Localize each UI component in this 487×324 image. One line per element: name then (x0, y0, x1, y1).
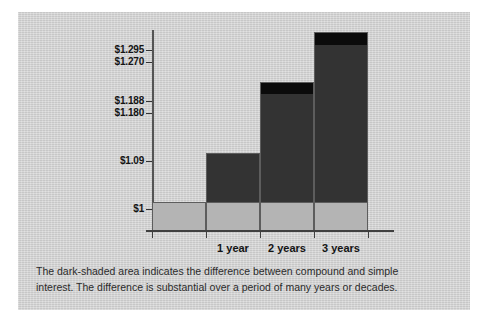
bar-2-years (260, 82, 314, 202)
bar-3-years (314, 32, 368, 202)
bar-1-year (206, 153, 260, 202)
x-tick-mark-4 (368, 231, 369, 238)
y-tick-label-109: $1.09 (120, 156, 144, 166)
x-axis-label-3-years: 3 years (306, 242, 376, 254)
principal-cell-1-year (206, 202, 260, 231)
caption-line-1: The dark-shaded area indicates the diffe… (36, 264, 454, 280)
y-tick-label-1: $1 (133, 204, 144, 214)
x-axis-line (146, 230, 394, 232)
y-axis-labels: $1.295 $1.270 $1.188 $1.180 $1.09 $1 (18, 12, 144, 252)
bar-2-years-difference-cap (261, 83, 313, 94)
chart-caption: The dark-shaded area indicates the diffe… (36, 264, 454, 295)
x-tick-mark-0 (152, 231, 153, 238)
figure-panel: $1.295 $1.270 $1.188 $1.180 $1.09 $1 (18, 12, 470, 310)
bar-3-years-difference-cap (315, 33, 367, 45)
principal-cell-3-years (314, 202, 368, 231)
x-tick-mark-1 (206, 231, 207, 238)
y-tick-label-1270: $1.270 (115, 57, 144, 67)
principal-cell-2-years (260, 202, 314, 231)
x-tick-mark-2 (260, 231, 261, 238)
chart-plot-area: $1.295 $1.270 $1.188 $1.180 $1.09 $1 (18, 12, 470, 252)
bars-group: 1 year 2 years 3 years (152, 12, 388, 252)
y-tick-label-1188: $1.188 (115, 96, 144, 106)
principal-cell-empty (152, 202, 206, 231)
caption-line-2: interest. The difference is substantial … (36, 280, 454, 296)
x-tick-mark-3 (314, 231, 315, 238)
y-tick-label-1295: $1.295 (115, 45, 144, 55)
y-tick-label-1180: $1.180 (115, 108, 144, 118)
